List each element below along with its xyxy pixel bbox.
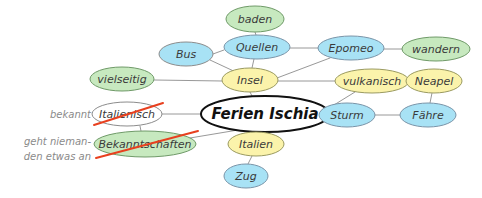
annotation-bekannt: bekannt (50, 109, 92, 120)
annotations-layer: bekanntgeht nieman-den etwas an (24, 109, 92, 162)
node-label-baden: baden (238, 13, 272, 26)
node-label-wandern: wandern (412, 43, 460, 56)
node-label-vielseitig: vielseitig (97, 73, 146, 86)
edge-neapel-to-faehre (430, 93, 432, 103)
node-quellen[interactable]: Quellen (224, 35, 290, 59)
edge-bus-to-quellen (213, 50, 224, 54)
node-label-insel: Insel (237, 74, 263, 87)
annotation-geht-niemanden-etwas-an-line-1: geht nieman- (24, 136, 91, 147)
node-label-neapel: Neapel (415, 75, 454, 88)
node-sturm[interactable]: Sturm (319, 103, 375, 127)
edge-quellen-to-insel (252, 59, 254, 68)
node-neapel[interactable]: Neapel (406, 69, 462, 93)
mindmap-graph: badenBusQuellenEpomeowandernvielseitigIn… (0, 0, 482, 198)
node-wandern[interactable]: wandern (402, 37, 470, 61)
edge-vielseitig-to-insel (154, 80, 222, 81)
nodes-layer: badenBusQuellenEpomeowandernvielseitigIn… (90, 6, 470, 188)
annotation-geht-niemanden-etwas-an: geht nieman-den etwas an (24, 136, 92, 162)
edge-italienisch-to-bekanntschaften (140, 126, 141, 131)
node-bus[interactable]: Bus (159, 42, 213, 66)
node-label-sturm: Sturm (330, 109, 364, 122)
node-label-quellen: Quellen (236, 41, 278, 54)
edge-epomeo-to-insel (277, 58, 330, 78)
node-insel[interactable]: Insel (222, 68, 278, 92)
node-vielseitig[interactable]: vielseitig (90, 67, 154, 91)
node-label-epomeo: Epomeo (329, 42, 374, 55)
node-label-ferien-ischia: Ferien Ischia (211, 105, 318, 123)
node-label-vulkanisch: vulkanisch (343, 75, 401, 88)
node-zug[interactable]: Zug (224, 164, 268, 188)
node-faehre[interactable]: Fähre (400, 103, 456, 127)
annotation-geht-niemanden-etwas-an-line-2: den etwas an (24, 151, 91, 162)
node-italien[interactable]: Italien (228, 132, 284, 156)
node-ferien-ischia[interactable]: Ferien Ischia (201, 96, 329, 132)
node-label-faehre: Fähre (412, 109, 444, 122)
edge-italien-to-zug (248, 156, 252, 164)
node-vulkanisch[interactable]: vulkanisch (335, 69, 409, 93)
node-label-bus: Bus (176, 48, 197, 61)
node-label-italien: Italien (239, 138, 273, 151)
node-baden[interactable]: baden (226, 6, 284, 32)
node-epomeo[interactable]: Epomeo (318, 36, 384, 60)
annotation-bekannt-line-1: bekannt (50, 109, 92, 120)
mindmap-canvas: badenBusQuellenEpomeowandernvielseitigIn… (0, 0, 482, 198)
node-label-zug: Zug (234, 170, 257, 183)
